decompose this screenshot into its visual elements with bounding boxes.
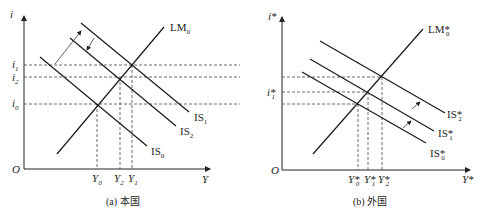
y2-label: Y2: [114, 172, 124, 187]
caption-foreign: (b) 外国: [353, 196, 387, 208]
is2-curve: [70, 38, 176, 126]
is-lm-diagram: i Y O LM0 IS1 IS2 IS0 i1 i2 i0 Y0 Y2: [0, 0, 481, 219]
i1-star-label: i*1: [267, 86, 276, 101]
shift-arrow-down: [87, 38, 94, 50]
is1-star-curve: [310, 59, 434, 131]
is1-curve: [81, 23, 189, 112]
lm0-curve: [57, 27, 164, 154]
x-axis-label: Y: [202, 173, 210, 185]
is2-label: IS2: [180, 125, 194, 140]
panel-foreign: i* Y* O LM*0 IS*2 IS*1 IS*0 i*1 Y*0 Y*1 …: [267, 10, 474, 208]
y1-label: Y1: [128, 172, 138, 187]
i2-label: i2: [12, 71, 19, 86]
panel-home: i Y O LM0 IS1 IS2 IS0 i1 i2 i0 Y0 Y2: [10, 8, 240, 208]
y0-label: Y0: [92, 172, 102, 187]
is2-star-label: IS*2: [447, 108, 462, 123]
y1-star-label: Y*1: [364, 173, 376, 188]
shift-arrow-up: [55, 31, 81, 64]
lm0-label: LM0: [170, 21, 191, 36]
y-axis-label: i*: [268, 10, 277, 22]
is1-star-label: IS*1: [438, 127, 453, 142]
i0-label: i0: [12, 97, 19, 112]
origin-label: O: [12, 163, 20, 175]
y0-star-label: Y*0: [348, 173, 360, 188]
shift-arrow-lower: [403, 121, 411, 128]
is1-label: IS1: [194, 111, 208, 126]
y-axis-label: i: [10, 8, 13, 20]
y2-star-label: Y*2: [378, 173, 390, 188]
origin-label: O: [271, 164, 279, 176]
is0-star-curve: [302, 72, 426, 143]
guide-lines: [282, 77, 382, 170]
caption-home: (a) 本国: [106, 195, 140, 208]
is0-curve: [40, 57, 147, 146]
lm0-star-label: LM*0: [428, 23, 450, 38]
is0-label: IS0: [151, 145, 165, 160]
x-axis-label: Y*: [462, 173, 474, 185]
is0-star-label: IS*0: [430, 147, 445, 162]
shift-arrow-upper: [412, 102, 420, 109]
guide-lines: [24, 65, 240, 169]
